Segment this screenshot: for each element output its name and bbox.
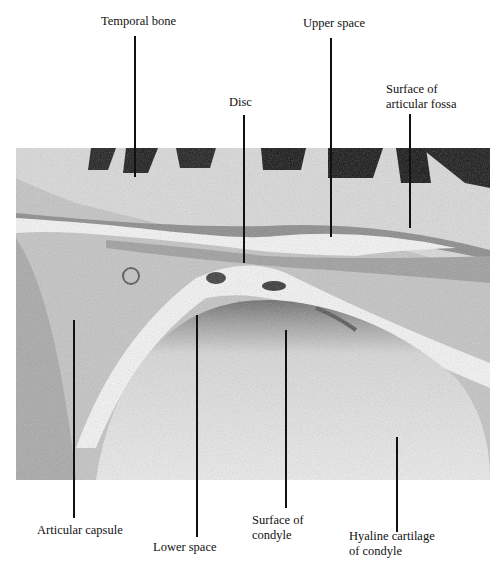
leader-temporal-bone (134, 36, 136, 177)
leader-lower-space (196, 315, 198, 537)
label-surface-of-articular-fossa: Surface of articular fossa (386, 82, 456, 112)
label-articular-capsule: Articular capsule (37, 523, 123, 538)
label-upper-space: Upper space (303, 16, 365, 31)
leader-disc (243, 115, 245, 263)
label-surface-of-condyle: Surface of condyle (252, 513, 304, 543)
histology-micrograph (16, 148, 490, 480)
leader-upper-space (330, 38, 332, 237)
label-disc: Disc (229, 95, 252, 110)
leader-hyaline-cartilage (396, 437, 398, 532)
label-hyaline-cartilage-of-condyle: Hyaline cartilage of condyle (349, 529, 435, 559)
label-temporal-bone: Temporal bone (101, 14, 176, 29)
leader-surface-of-articular-fossa (409, 114, 411, 228)
leader-surface-of-condyle (285, 330, 287, 508)
label-lower-space: Lower space (153, 540, 217, 555)
leader-articular-capsule (73, 320, 75, 518)
